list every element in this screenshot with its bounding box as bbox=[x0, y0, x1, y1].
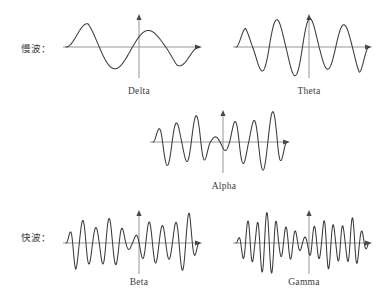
vertical-axis-arrow-alpha bbox=[220, 110, 225, 116]
row-label-slow-waves: 慢波： bbox=[21, 41, 52, 55]
waveform-delta bbox=[66, 24, 199, 69]
eeg-waveform-figure bbox=[0, 0, 389, 300]
waveform-alpha bbox=[153, 112, 287, 171]
caption-gamma: Gamma bbox=[264, 277, 344, 287]
vertical-axis-arrow-gamma bbox=[306, 210, 311, 216]
caption-delta: Delta bbox=[99, 86, 179, 96]
caption-beta: Beta bbox=[99, 277, 179, 287]
waves-layer bbox=[66, 19, 369, 273]
row-label-fast-waves: 快波： bbox=[21, 230, 52, 244]
vertical-axis-arrow-delta bbox=[136, 14, 141, 20]
waveform-beta bbox=[66, 213, 199, 270]
vertical-axis-arrow-beta bbox=[136, 210, 141, 216]
caption-alpha: Alpha bbox=[184, 181, 264, 191]
caption-theta: Theta bbox=[269, 86, 349, 96]
